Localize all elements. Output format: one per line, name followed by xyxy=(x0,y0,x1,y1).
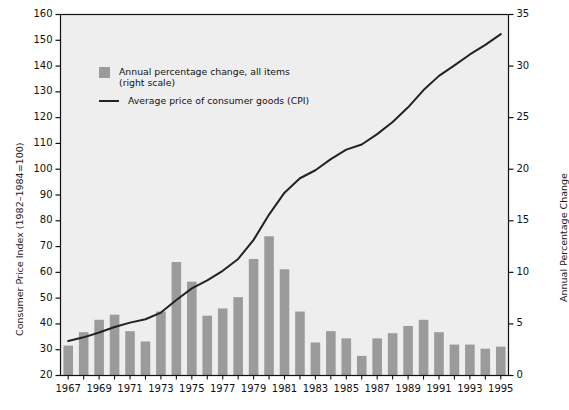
y-tick-label-left-40: 40 xyxy=(40,317,53,328)
chart-legend: Annual percentage change, all items (rig… xyxy=(99,66,309,113)
bar-1986 xyxy=(357,356,367,376)
bar-1993 xyxy=(465,345,475,376)
legend-item-bars: Annual percentage change, all items (rig… xyxy=(99,66,309,88)
bar-1981 xyxy=(280,269,290,375)
y-tick-label-left-140: 140 xyxy=(33,60,52,71)
y-tick-label-right-30: 30 xyxy=(517,60,530,71)
legend-item-line: Average price of consumer goods (CPI) xyxy=(99,95,309,106)
bar-1974 xyxy=(172,262,182,375)
y-tick-label-right-35: 35 xyxy=(517,8,530,19)
y-tick-label-left-120: 120 xyxy=(33,111,52,122)
bar-1973 xyxy=(156,312,166,376)
bar-1972 xyxy=(141,341,151,375)
y-axis-left-title: Consumer Price Index (1982–1984=100) xyxy=(14,143,25,336)
y-tick-label-left-110: 110 xyxy=(33,137,52,148)
y-tick-label-left-30: 30 xyxy=(40,343,53,354)
bar-1992 xyxy=(450,345,460,376)
bar-1983 xyxy=(311,342,321,375)
bar-1990 xyxy=(419,320,429,376)
bar-1991 xyxy=(434,332,444,375)
y-tick-label-left-80: 80 xyxy=(40,214,53,225)
bar-1976 xyxy=(202,316,212,376)
x-tick-label-1995: 1995 xyxy=(481,383,521,394)
bar-1987 xyxy=(372,338,382,375)
bar-1984 xyxy=(326,331,336,375)
y-tick-label-left-20: 20 xyxy=(40,369,53,380)
bar-1969 xyxy=(94,320,104,376)
y-tick-label-left-70: 70 xyxy=(40,240,53,251)
bar-1989 xyxy=(403,326,413,376)
y-tick-label-left-160: 160 xyxy=(33,8,52,19)
bar-1977 xyxy=(218,308,228,375)
legend-line-icon xyxy=(99,100,119,102)
bar-1995 xyxy=(496,347,506,376)
y-tick-label-right-0: 0 xyxy=(517,369,523,380)
legend-label-line: Average price of consumer goods (CPI) xyxy=(128,95,309,106)
y-tick-label-right-20: 20 xyxy=(517,163,530,174)
y-tick-label-left-50: 50 xyxy=(40,292,53,303)
legend-label-bars: Annual percentage change, all items (rig… xyxy=(119,66,290,88)
bar-1980 xyxy=(264,236,274,375)
bar-1970 xyxy=(110,315,120,376)
bar-1971 xyxy=(125,331,135,375)
y-tick-label-right-25: 25 xyxy=(517,111,530,122)
y-tick-label-left-130: 130 xyxy=(33,85,52,96)
bar-1982 xyxy=(295,312,305,376)
y-tick-label-right-10: 10 xyxy=(517,266,530,277)
bar-1994 xyxy=(481,349,491,376)
y-tick-label-right-5: 5 xyxy=(517,317,523,328)
bar-1988 xyxy=(388,333,398,375)
y-tick-label-left-60: 60 xyxy=(40,266,53,277)
bar-1979 xyxy=(249,259,259,376)
bar-1978 xyxy=(233,297,243,375)
y-tick-label-left-100: 100 xyxy=(33,163,52,174)
bar-1975 xyxy=(187,282,197,376)
y-axis-right-title: Annual Percentage Change xyxy=(558,173,569,302)
bar-1967 xyxy=(63,346,73,376)
y-tick-label-right-15: 15 xyxy=(517,214,530,225)
y-tick-label-left-150: 150 xyxy=(33,34,52,45)
legend-swatch-icon xyxy=(99,67,110,78)
y-tick-label-left-90: 90 xyxy=(40,189,53,200)
bar-1985 xyxy=(342,338,352,375)
